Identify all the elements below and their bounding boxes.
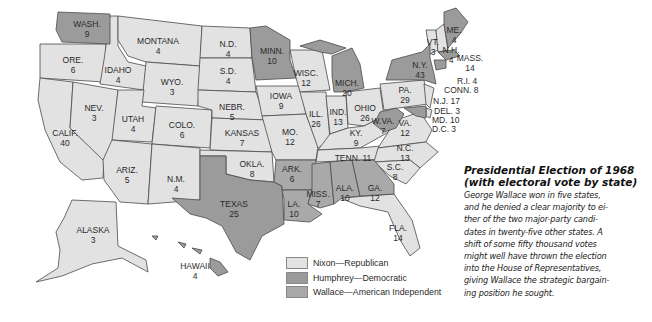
label-pennsylvania: PA. 29 <box>398 86 411 105</box>
label-tennessee: TENN. 11 <box>335 154 372 164</box>
caption-line: ther of the two major-party candi- <box>464 213 652 225</box>
legend-swatch-humphrey <box>286 272 308 284</box>
label-nebraska: NEBR. 5 <box>219 103 245 122</box>
label-california: CALIF. 40 <box>52 129 78 148</box>
label-idaho: IDAHO 4 <box>105 66 132 85</box>
label-oklahoma: OKLA. 8 <box>239 160 264 179</box>
state-hawaii <box>210 258 228 276</box>
label-arkansas: ARK. 6 <box>282 165 302 184</box>
label-missouri: MO. 12 <box>282 128 298 147</box>
legend-swatch-wallace <box>286 286 308 298</box>
legend-item-humphrey: Humphrey—Democratic <box>286 271 441 285</box>
label-oregon: ORE. 6 <box>63 56 84 75</box>
caption-line: ing position he sought. <box>464 287 652 299</box>
label-virginia: VA. 12 <box>398 119 411 138</box>
caption-line: shift of some fifty thousand votes <box>464 238 652 250</box>
label-mississippi: MISS. 7 <box>306 190 329 209</box>
caption-line: and he denied a clear majority to ei- <box>464 201 652 213</box>
label-alaska: ALASKA 3 <box>76 226 109 245</box>
label-maine: ME. 4 <box>446 26 461 45</box>
label-louisiana: LA. 10 <box>288 200 301 219</box>
label-massachusetts: MASS. 14 <box>457 54 483 73</box>
legend-item-nixon: Nixon—Republican <box>286 256 441 270</box>
label-washington: WASH. 9 <box>73 20 101 39</box>
label-south-carolina: S.C. 8 <box>387 163 404 182</box>
legend-swatch-nixon <box>286 257 308 269</box>
label-west-virginia: W.VA. 7 <box>372 117 395 136</box>
state-hawaii-islands <box>152 236 202 254</box>
map-caption: Presidential Election of 1968 (with elec… <box>464 164 652 299</box>
label-alabama: ALA. 10 <box>336 184 354 203</box>
label-kansas: KANSAS 7 <box>225 129 260 148</box>
label-illinois: ILL. 26 <box>309 110 323 129</box>
label-arizona: ARIZ. 5 <box>116 166 138 185</box>
caption-line: into the House of Representatives, <box>464 262 652 274</box>
label-florida: FLA. 14 <box>389 224 407 243</box>
label-indiana: IND. 13 <box>330 108 347 127</box>
caption-title-line2: (with electoral vote by state) <box>464 176 652 188</box>
label-texas: TEXAS 25 <box>220 200 248 219</box>
label-utah: UTAH 4 <box>122 115 145 134</box>
label-iowa: IOWA 9 <box>270 92 292 111</box>
label-montana: MONTANA 4 <box>137 37 179 56</box>
map-legend: Nixon—Republican Humphrey—Democratic Wal… <box>286 256 441 300</box>
caption-title-line1: Presidential Election of 1968 <box>464 164 652 176</box>
legend-label-humphrey: Humphrey—Democratic <box>313 273 407 283</box>
label-dc: D.C. 3 <box>432 125 456 135</box>
label-south-dakota: S.D. 4 <box>220 67 237 86</box>
legend-label-wallace: Wallace—American Independent <box>313 287 441 297</box>
caption-line: might well have thrown the election <box>464 250 652 262</box>
label-michigan: MICH. 20 <box>335 79 359 98</box>
label-wyoming: WYO. 3 <box>161 78 184 97</box>
caption-line: giving Wallace the strategic bargain- <box>464 274 652 286</box>
legend-item-wallace: Wallace—American Independent <box>286 285 441 299</box>
label-wisconsin: WISC. 12 <box>294 69 319 88</box>
label-north-dakota: N.D. 4 <box>220 40 237 59</box>
label-vermont: VT. 3 <box>427 38 439 57</box>
caption-body: George Wallace won in five states, and h… <box>464 189 652 299</box>
label-new-mexico: N.M. 4 <box>167 175 185 194</box>
caption-line: dates in twenty-five other states. A <box>464 226 652 238</box>
label-hawaii: HAWAII 4 <box>180 262 210 281</box>
label-connecticut: CONN. 8 <box>444 86 478 96</box>
state-florida <box>340 194 420 256</box>
label-georgia: GA. 12 <box>368 184 383 203</box>
caption-line: George Wallace won in five states, <box>464 189 652 201</box>
legend-label-nixon: Nixon—Republican <box>313 258 388 268</box>
label-minnesota: MINN. 10 <box>260 47 284 66</box>
label-north-carolina: N.C. 13 <box>397 144 414 163</box>
label-new-york: N.Y. 43 <box>412 61 427 80</box>
label-kentucky: KY. 9 <box>350 129 363 148</box>
label-nevada: NEV. 3 <box>84 104 103 123</box>
label-colorado: COLO. 6 <box>169 121 195 140</box>
